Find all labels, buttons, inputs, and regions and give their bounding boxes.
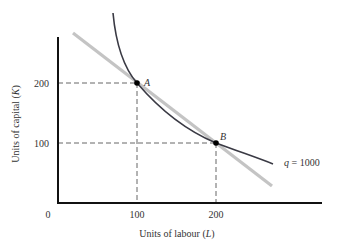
- isoquant-label: q = 1000: [284, 157, 320, 168]
- point-a: [134, 80, 140, 86]
- origin-label: 0: [46, 209, 51, 220]
- axes: [57, 37, 322, 204]
- y-axis-label: Units of capital (K): [10, 85, 22, 163]
- x-tick-100: 100: [130, 209, 145, 220]
- y-tick-200: 200: [34, 78, 49, 89]
- point-b: [213, 140, 219, 146]
- y-tick-100: 100: [34, 138, 49, 149]
- guide-lines: [58, 83, 216, 203]
- isoquant-chart: A B q = 1000 200 100 0 100 200 Units of …: [0, 0, 345, 251]
- x-tick-200: 200: [209, 209, 224, 220]
- point-a-label: A: [143, 77, 151, 88]
- point-b-label: B: [220, 131, 226, 142]
- x-axis-label: Units of labour (L): [139, 228, 214, 240]
- isocost-line: [73, 33, 272, 186]
